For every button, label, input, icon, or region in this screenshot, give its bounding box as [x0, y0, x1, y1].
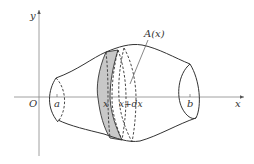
- x-plus-dx-label: x+dx: [119, 99, 142, 109]
- shaded-slice: [97, 50, 122, 140]
- x-axis-label: x: [235, 98, 241, 109]
- a-label: a: [54, 98, 60, 109]
- area-label: A(x): [143, 28, 165, 39]
- x-label: x: [103, 98, 109, 109]
- right-end-cap: [179, 64, 200, 119]
- diagram-canvas: y x O a x x+dx b A(x): [0, 0, 254, 164]
- b-label: b: [187, 98, 193, 109]
- y-axis-label: y: [29, 10, 36, 21]
- solid-bottom-curve: [58, 118, 196, 141]
- cross-section-outer-back: [124, 48, 136, 142]
- origin-label: O: [29, 98, 37, 109]
- area-leader-line: [130, 40, 148, 84]
- solid-top-curve: [56, 44, 190, 78]
- solid-volume-diagram: y x O a x x+dx b A(x): [0, 0, 254, 164]
